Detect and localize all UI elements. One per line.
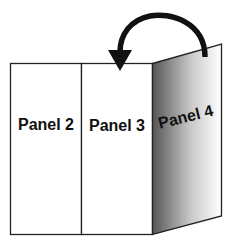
panel-4: Panel 4 <box>153 44 222 235</box>
panel-2-label: Panel 2 <box>18 116 74 133</box>
panel-3-label: Panel 3 <box>89 117 145 134</box>
brochure-fold-diagram: Panel 2 Panel 3 Panel 4 <box>0 0 229 240</box>
panel-3: Panel 3 <box>82 64 153 235</box>
panel-2: Panel 2 <box>11 64 82 235</box>
